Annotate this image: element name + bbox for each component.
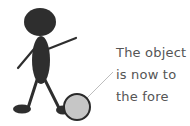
figure-body [32,36,50,84]
ball [64,94,90,120]
figure-left-arm [18,49,34,68]
callout-caption: The object is now to the fore [116,42,186,108]
figure-left-leg [28,80,37,108]
figure-right-arm [48,38,76,49]
caption-line-3: the fore [116,86,186,108]
figure-left-foot [13,105,31,114]
callout-pointer-line [86,72,113,99]
caption-line-1: The object [116,42,186,64]
figure-head [24,8,56,36]
caption-line-2: is now to [116,64,186,86]
figure-right-leg [45,80,59,108]
